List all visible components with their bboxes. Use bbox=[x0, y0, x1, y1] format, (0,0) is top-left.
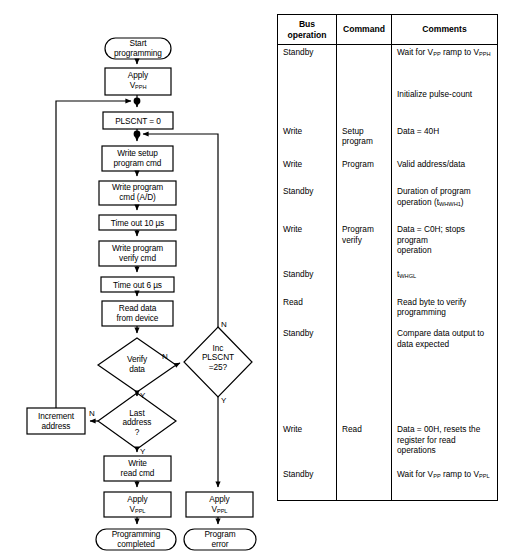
node-write-read-cmd-shape bbox=[104, 456, 171, 481]
node-start-shape bbox=[105, 38, 171, 59]
edge-label-verify-yes: Y bbox=[140, 391, 145, 400]
cell-command: Read bbox=[337, 422, 392, 467]
table-row: Initialize pulse-count bbox=[278, 87, 497, 124]
cell-command bbox=[337, 295, 392, 327]
node-timeout-6us-shape bbox=[101, 277, 174, 292]
table-row: WriteProgramValid address/data bbox=[278, 157, 497, 185]
edge-label-last-address-no: N bbox=[89, 409, 95, 418]
table-header-row: Bus operation Command Comments bbox=[278, 15, 497, 45]
cell-bus-operation: Read bbox=[278, 295, 337, 327]
cell-comments: Compare data output todata expected bbox=[392, 326, 498, 366]
edge-label-verify-no: N bbox=[162, 352, 168, 361]
cell-command: Programverify bbox=[337, 222, 392, 267]
node-write-verify-shape bbox=[99, 241, 176, 266]
cell-comments: tWHGL bbox=[392, 267, 498, 295]
node-write-setup-shape bbox=[102, 146, 173, 171]
node-last-address-shape bbox=[98, 393, 176, 449]
node-plscnt-zero-shape bbox=[103, 112, 173, 129]
cell-bus-operation: Write bbox=[278, 124, 337, 157]
cell-bus-operation: Standby bbox=[278, 184, 337, 222]
cell-command bbox=[337, 467, 392, 500]
cell-bus-operation: Write bbox=[278, 422, 337, 467]
cell-command bbox=[337, 87, 392, 124]
flowchart-graphics bbox=[0, 0, 280, 560]
cell-command bbox=[337, 367, 392, 422]
cell-comments: Read byte to verifyprogramming bbox=[392, 295, 498, 327]
cell-comments: Wait for VPP ramp to VPPH bbox=[392, 45, 498, 88]
cell-command bbox=[337, 326, 392, 366]
cell-comments: Wait for VPP ramp to VPPL bbox=[392, 467, 498, 500]
programming-flowchart: Startprogramming ApplyVPPH PLSCNT = 0 Wr… bbox=[0, 0, 280, 560]
table-row: WriteProgramverifyData = C0H; stops prog… bbox=[278, 222, 497, 267]
cell-bus-operation: Standby bbox=[278, 267, 337, 295]
table-row: StandbyWait for VPP ramp to VPPH bbox=[278, 45, 497, 88]
cell-comments bbox=[392, 367, 498, 422]
column-header-comments: Comments bbox=[392, 15, 498, 45]
node-read-data-shape bbox=[102, 301, 173, 326]
column-header-command: Command bbox=[337, 15, 392, 45]
column-header-bus-operation: Bus operation bbox=[278, 15, 337, 45]
table-row: StandbyWait for VPP ramp to VPPL bbox=[278, 467, 497, 500]
cell-bus-operation: Standby bbox=[278, 326, 337, 366]
table-head: Bus operation Command Comments bbox=[278, 15, 497, 45]
cell-bus-operation: Standby bbox=[278, 45, 337, 88]
cell-bus-operation bbox=[278, 367, 337, 422]
node-increment-address-shape bbox=[27, 408, 85, 434]
flowchart-junctions bbox=[134, 98, 141, 138]
cell-comments: Initialize pulse-count bbox=[392, 87, 498, 124]
cell-comments: Valid address/data bbox=[392, 157, 498, 185]
column-header-bus-operation-line1: Bus bbox=[299, 19, 315, 29]
column-header-bus-operation-line2: operation bbox=[287, 30, 326, 40]
bus-operation-table-grid: Bus operation Command Comments StandbyWa… bbox=[278, 15, 497, 500]
cell-command bbox=[337, 184, 392, 222]
table-row: WriteReadData = 00H, resets theregister … bbox=[278, 422, 497, 467]
table-row: StandbyCompare data output todata expect… bbox=[278, 326, 497, 366]
cell-bus-operation bbox=[278, 87, 337, 124]
cell-command: Setupprogram bbox=[337, 124, 392, 157]
table-row bbox=[278, 367, 497, 422]
edge-label-plscnt-yes: Y bbox=[221, 396, 226, 405]
node-timeout-10us-shape bbox=[99, 215, 176, 230]
table-row: StandbytWHGL bbox=[278, 267, 497, 295]
node-verify-data-shape bbox=[98, 338, 176, 392]
cell-command bbox=[337, 45, 392, 88]
bus-operation-table: Bus operation Command Comments StandbyWa… bbox=[277, 14, 498, 501]
node-apply-vppl-right-shape bbox=[186, 492, 253, 517]
edge-label-plscnt-no: N bbox=[221, 320, 227, 329]
cell-command: Program bbox=[337, 157, 392, 185]
node-prog-completed-shape bbox=[96, 529, 176, 550]
table-row: StandbyDuration of programoperation (tWH… bbox=[278, 184, 497, 222]
cell-comments: Data = C0H; stops programoperation bbox=[392, 222, 498, 267]
cell-bus-operation: Standby bbox=[278, 467, 337, 500]
table-body: StandbyWait for VPP ramp to VPPHInitiali… bbox=[278, 45, 497, 501]
node-apply-vpph-shape bbox=[105, 68, 171, 95]
cell-comments: Data = 40H bbox=[392, 124, 498, 157]
cell-command bbox=[337, 267, 392, 295]
node-inc-plscnt-shape bbox=[184, 327, 252, 397]
cell-comments: Data = 00H, resets theregister for read … bbox=[392, 422, 498, 467]
node-apply-vppl-left-shape bbox=[104, 492, 171, 517]
cell-comments: Duration of programoperation (tWHWH1) bbox=[392, 184, 498, 222]
node-write-program-shape bbox=[99, 181, 176, 205]
junction-dot-plscnt bbox=[134, 131, 141, 138]
node-prog-error-shape bbox=[184, 529, 256, 550]
table-row: ReadRead byte to verifyprogramming bbox=[278, 295, 497, 327]
table-row: WriteSetupprogramData = 40H bbox=[278, 124, 497, 157]
junction-dot-apply bbox=[134, 98, 141, 105]
edge-label-last-address-yes: Y bbox=[140, 447, 145, 456]
cell-bus-operation: Write bbox=[278, 157, 337, 185]
cell-bus-operation: Write bbox=[278, 222, 337, 267]
figure-page: Startprogramming ApplyVPPH PLSCNT = 0 Wr… bbox=[0, 0, 523, 560]
